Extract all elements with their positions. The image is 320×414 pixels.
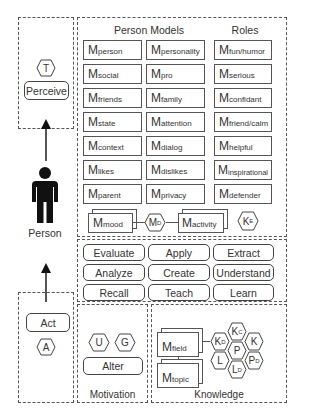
action-extract[interactable]: Extract [213,244,274,261]
ke-hexagon: KE [237,211,259,231]
model-dialog[interactable]: Mdialog [146,136,205,156]
model-topic[interactable]: Mtopic [157,363,199,388]
action-analyze[interactable]: Analyze [83,264,145,281]
person-icon [30,166,60,224]
action-teach[interactable]: Teach [148,284,210,301]
model-privacy[interactable]: Mprivacy [146,184,205,204]
md-activity-connector [166,222,178,223]
role-fun-humor[interactable]: Mfun/humor [214,40,272,60]
alter-button[interactable]: Alter [83,357,143,375]
action-create[interactable]: Create [148,264,210,281]
model-mood[interactable]: Mmood [88,213,133,233]
action-understand[interactable]: Understand [213,264,274,281]
u-hexagon: U [88,333,110,352]
model-social[interactable]: Msocial [83,64,142,84]
md-hexagon: MD [144,213,166,232]
field-kd-connector [203,341,210,342]
arrow-up-icon [41,263,51,273]
action-apply[interactable]: Apply [148,244,210,261]
act-button[interactable]: Act [26,313,70,332]
person-label: Person [20,227,70,239]
role-confidant[interactable]: Mconfidant [214,88,272,108]
action-evaluate[interactable]: Evaluate [83,244,145,261]
ld-hexagon: LD [227,360,247,379]
a-hexagon: A [36,338,56,356]
knowledge-title: Knowledge [151,389,287,400]
model-parent[interactable]: Mparent [83,184,142,204]
pd-hexagon: PD [244,351,264,370]
k-hexagon: K [244,332,264,351]
model-context[interactable]: Mcontext [83,136,142,156]
action-recall[interactable]: Recall [83,284,145,301]
perceive-button[interactable]: Perceive [24,81,69,100]
model-family[interactable]: Mfamily [146,88,205,108]
model-state[interactable]: Mstate [83,112,142,132]
arrow-up-icon [41,119,51,129]
t-hexagon: T [36,59,56,77]
model-friends[interactable]: Mfriends [83,88,142,108]
model-activity[interactable]: Mactivity [178,213,224,233]
role-helpful[interactable]: Mhelpful [214,136,272,156]
model-personality[interactable]: Mpersonality [146,40,205,60]
model-person[interactable]: Mperson [83,40,142,60]
role-friend-calm[interactable]: Mfriend/calm [214,112,272,132]
role-inspirational[interactable]: Minspirational [214,160,272,180]
model-field[interactable]: Mfield [157,332,199,357]
g-hexagon: G [114,333,136,352]
arrow-to-perceive-line [45,127,47,161]
model-pro[interactable]: Mpro [146,64,205,84]
model-attention[interactable]: Mattention [146,112,205,132]
role-defender[interactable]: Mdefender [214,184,272,204]
person-models-title: Person Models [84,24,214,36]
model-dislikes[interactable]: Mdislikes [146,160,205,180]
motivation-title: Motivation [77,389,148,400]
action-learn[interactable]: Learn [213,284,274,301]
role-serious[interactable]: Mserious [214,64,272,84]
model-likes[interactable]: Mlikes [83,160,142,180]
roles-title: Roles [215,24,275,36]
